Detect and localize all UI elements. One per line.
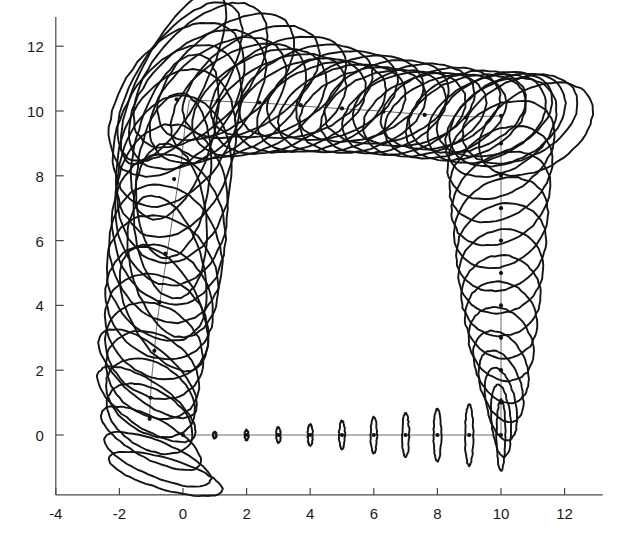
plot-svg: -4-2024681012024681012: [0, 0, 628, 558]
pose-marker-dot: [499, 303, 503, 307]
pose-marker-dot: [499, 433, 503, 437]
pose-marker-dot: [175, 97, 179, 101]
pose-marker-dot: [276, 433, 280, 437]
pose-marker-dot: [181, 433, 185, 437]
x-tick-label: 0: [179, 505, 187, 522]
pose-marker-dot: [148, 396, 152, 400]
pose-marker-dot: [245, 433, 249, 437]
pose-marker-dot: [157, 300, 161, 304]
pose-marker-dot: [499, 401, 503, 405]
pose-marker-dot: [499, 239, 503, 243]
y-tick-label: 0: [35, 427, 43, 444]
pose-marker-dot: [499, 206, 503, 210]
y-tick-label: 4: [35, 297, 43, 314]
x-tick-label: 8: [433, 505, 441, 522]
pose-marker-dot: [499, 114, 503, 118]
pose-marker-dot: [499, 368, 503, 372]
x-tick-label: 12: [556, 505, 573, 522]
pose-marker-dot: [216, 98, 220, 102]
y-tick-label: 6: [35, 233, 43, 250]
pose-marker-dot: [499, 141, 503, 145]
pose-marker-dot: [499, 174, 503, 178]
x-tick-label: 2: [242, 505, 250, 522]
pose-marker-dot: [308, 433, 312, 437]
pose-marker-dot: [148, 417, 152, 421]
pose-marker-dot: [381, 110, 385, 114]
pose-marker-dot: [257, 100, 261, 104]
pose-marker-dot: [340, 433, 344, 437]
plot-background: [0, 0, 628, 558]
x-tick-label: -4: [49, 505, 62, 522]
y-tick-label: 2: [35, 362, 43, 379]
y-tick-label: 10: [27, 103, 44, 120]
pose-marker-dot: [499, 336, 503, 340]
pose-marker-dot: [464, 115, 468, 119]
pose-marker-dot: [435, 433, 439, 437]
uncertainty-ellipse-plot: -4-2024681012024681012: [0, 0, 628, 558]
pose-marker-dot: [499, 271, 503, 275]
pose-marker-dot: [467, 433, 471, 437]
pose-marker-dot: [172, 177, 176, 181]
pose-marker-dot: [423, 113, 427, 117]
x-tick-label: -2: [113, 505, 126, 522]
pose-marker-dot: [340, 106, 344, 110]
pose-marker-dot: [404, 433, 408, 437]
y-tick-label: 12: [27, 38, 44, 55]
x-tick-label: 4: [306, 505, 314, 522]
x-tick-label: 10: [493, 505, 510, 522]
pose-marker-dot: [299, 103, 303, 107]
y-tick-label: 8: [35, 168, 43, 185]
x-tick-label: 6: [370, 505, 378, 522]
pose-marker-dot: [163, 251, 167, 255]
pose-marker-dot: [372, 433, 376, 437]
pose-marker-dot: [152, 349, 156, 353]
